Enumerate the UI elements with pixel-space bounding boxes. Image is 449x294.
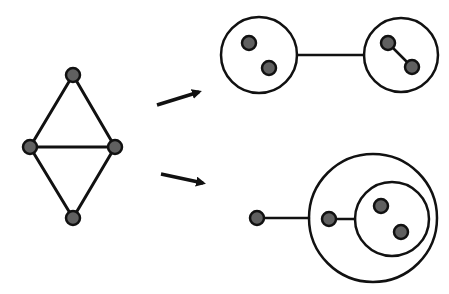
graph-edge — [30, 147, 73, 218]
graph-decomposition-diagram — [0, 0, 449, 294]
result-top-graph — [221, 17, 438, 93]
graph-node — [242, 36, 256, 50]
graph-edge — [73, 75, 115, 147]
graph-edge — [30, 75, 73, 147]
graph-node — [381, 36, 395, 50]
arrow — [157, 92, 199, 105]
graph-node — [394, 225, 408, 239]
graph-node — [374, 199, 388, 213]
graph-node — [250, 211, 264, 225]
cluster-circle — [355, 182, 429, 256]
graph-node — [23, 140, 37, 154]
graph-node — [322, 212, 336, 226]
graph-edge — [73, 147, 115, 218]
cluster-circle — [221, 17, 297, 93]
graph-node — [66, 211, 80, 225]
graph-node — [108, 140, 122, 154]
transformation-arrows — [157, 92, 203, 183]
graph-node — [66, 68, 80, 82]
diagram-canvas — [0, 0, 449, 294]
source-graph — [23, 68, 122, 225]
graph-node — [405, 60, 419, 74]
result-bottom-graph — [250, 154, 437, 282]
graph-node — [262, 61, 276, 75]
arrow — [161, 174, 203, 183]
